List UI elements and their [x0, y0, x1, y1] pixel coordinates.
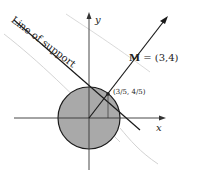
- tangent-point-label: (3/5, 4/5): [113, 88, 145, 96]
- faint-scribble: [120, 128, 158, 164]
- vector-m-value: = (3,4): [140, 52, 178, 63]
- vector-m-arrow-icon: [160, 16, 168, 24]
- vector-m-name: M: [129, 52, 140, 63]
- faint-scribble: [66, 14, 150, 72]
- vector-m-label: M = (3,4): [129, 52, 179, 63]
- x-axis-arrow-icon: [159, 116, 166, 121]
- diagram-canvas: Line of support M = (3,4) y x (3/5, 4/5): [0, 0, 201, 182]
- vector-m: [89, 21, 164, 118]
- y-axis-arrow-icon: [87, 12, 92, 19]
- y-axis-label: y: [95, 14, 101, 25]
- x-axis-label: x: [156, 122, 162, 133]
